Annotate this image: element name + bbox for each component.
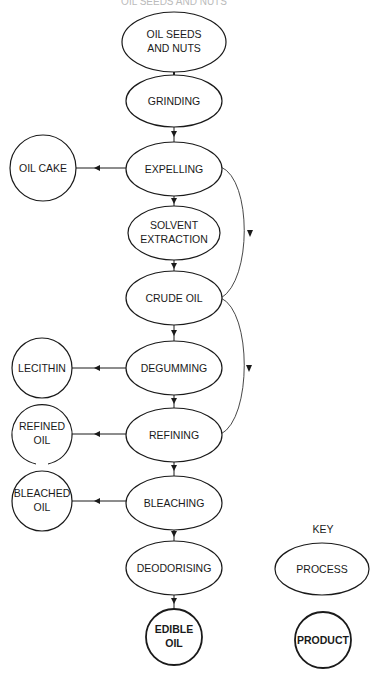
process-refining: REFINING <box>126 408 222 462</box>
product-oil-cake: OIL CAKE <box>10 135 76 201</box>
svg-text:EXTRACTION: EXTRACTION <box>140 233 208 245</box>
process-degumming: DEGUMMING <box>126 341 222 395</box>
svg-text:PRODUCT: PRODUCT <box>297 634 350 646</box>
svg-text:BLEACHED: BLEACHED <box>14 487 71 499</box>
cropped-title: OIL SEEDS AND NUTS <box>121 0 227 7</box>
product-refined-oil: REFINED OIL <box>12 405 72 464</box>
svg-text:OIL: OIL <box>34 434 51 446</box>
legend: KEY PROCESS PRODUCT <box>275 523 369 668</box>
side-connectors <box>72 165 126 504</box>
svg-text:SOLVENT: SOLVENT <box>150 219 199 231</box>
svg-text:REFINED: REFINED <box>19 420 66 432</box>
legend-process: PROCESS <box>275 543 369 595</box>
process-bleaching: BLEACHING <box>126 476 222 530</box>
svg-text:OIL: OIL <box>34 501 51 513</box>
bypass-curves <box>221 167 253 434</box>
svg-text:GRINDING: GRINDING <box>148 95 201 107</box>
product-lecithin: LECITHIN <box>12 338 72 398</box>
svg-text:CRUDE OIL: CRUDE OIL <box>145 292 202 304</box>
process-expelling: EXPELLING <box>126 142 222 196</box>
svg-text:OIL: OIL <box>165 637 183 649</box>
process-deodorising: DEODORISING <box>126 541 222 595</box>
svg-text:DEODORISING: DEODORISING <box>137 562 212 574</box>
svg-text:REFINING: REFINING <box>149 429 199 441</box>
svg-text:OIL SEEDS: OIL SEEDS <box>146 28 201 40</box>
product-bleached-oil: BLEACHED OIL <box>12 471 72 531</box>
svg-text:AND NUTS: AND NUTS <box>147 42 201 54</box>
svg-text:BLEACHING: BLEACHING <box>144 497 205 509</box>
process-solvent-extraction: SOLVENT EXTRACTION <box>128 206 220 260</box>
process-oil-seeds: OIL SEEDS AND NUTS <box>122 12 226 72</box>
process-crude-oil: CRUDE OIL <box>126 271 222 325</box>
product-edible-oil: EDIBLE OIL <box>146 609 202 665</box>
svg-text:OIL CAKE: OIL CAKE <box>19 162 67 174</box>
svg-text:LECITHIN: LECITHIN <box>18 362 66 374</box>
legend-title: KEY <box>312 523 333 535</box>
svg-text:EDIBLE: EDIBLE <box>155 623 194 635</box>
process-grinding: GRINDING <box>126 75 222 127</box>
svg-text:PROCESS: PROCESS <box>296 563 347 575</box>
svg-text:DEGUMMING: DEGUMMING <box>141 362 208 374</box>
oil-processing-flowchart: OIL SEEDS AND NUTS <box>0 0 385 677</box>
legend-product: PRODUCT <box>295 612 351 668</box>
svg-text:EXPELLING: EXPELLING <box>145 163 203 175</box>
